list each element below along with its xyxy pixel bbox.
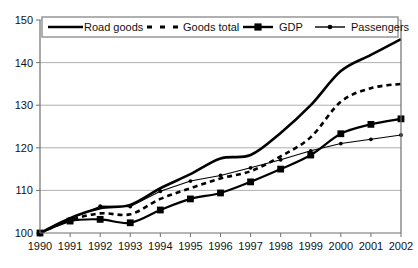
legend-label-road-goods: Road goods (84, 21, 144, 33)
series-marker (187, 196, 194, 203)
series-marker (368, 121, 375, 128)
x-tick-label: 1996 (208, 240, 232, 252)
series-marker (247, 178, 254, 185)
series-marker (127, 219, 134, 226)
y-tick-label: 100 (15, 227, 33, 239)
series-marker (128, 205, 132, 209)
series-marker (158, 189, 162, 193)
legend-label-passengers: Passengers (351, 21, 410, 33)
series-marker (217, 190, 224, 197)
y-tick-label: 110 (15, 184, 33, 196)
x-tick-label: 1994 (148, 240, 172, 252)
series-marker (277, 166, 284, 173)
x-tick-label: 2001 (359, 240, 383, 252)
legend-swatch-marker (254, 23, 261, 30)
series-marker (189, 179, 193, 183)
series-marker (369, 137, 373, 141)
chart-container: 150140130120110100 199019911992199319941… (0, 0, 418, 268)
legend-label-goods-total: Goods total (183, 21, 239, 33)
series-marker (219, 174, 223, 178)
chart-legend: Road goodsGoods totalGDPPassengers (42, 17, 410, 37)
series-marker (279, 158, 283, 162)
x-tick-label: 1997 (238, 240, 262, 252)
y-tick-label: 120 (15, 142, 33, 154)
series-marker (337, 130, 344, 137)
legend-swatch-marker (328, 25, 333, 30)
x-tick-label: 1999 (299, 240, 323, 252)
y-tick-label: 150 (15, 14, 33, 26)
x-tick-label: 2000 (329, 240, 353, 252)
x-tick-label: 1992 (88, 240, 112, 252)
y-tick-label: 130 (15, 99, 33, 111)
legend-label-gdp: GDP (279, 21, 303, 33)
series-marker (249, 166, 253, 170)
series-marker (157, 207, 164, 214)
x-tick-label: 2002 (389, 240, 413, 252)
x-tick-label: 1998 (268, 240, 292, 252)
x-tick-label: 1993 (118, 240, 142, 252)
series-marker (309, 149, 313, 153)
series-marker (339, 142, 343, 146)
chart-background (0, 0, 418, 268)
series-marker (97, 216, 104, 223)
series-marker (98, 204, 102, 208)
y-tick-label: 140 (15, 57, 33, 69)
x-tick-label: 1990 (28, 240, 52, 252)
line-chart: 150140130120110100 199019911992199319941… (0, 0, 418, 268)
x-tick-label: 1995 (178, 240, 202, 252)
series-marker (68, 217, 72, 221)
x-tick-label: 1991 (58, 240, 82, 252)
